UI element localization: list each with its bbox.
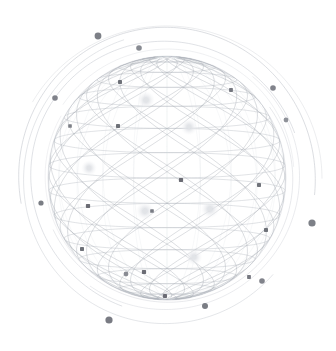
surface-node-7 — [264, 228, 268, 232]
surface-node-5 — [86, 204, 90, 208]
glow-node-1 — [144, 98, 148, 102]
surface-node-1 — [118, 80, 122, 84]
surface-node-11 — [247, 275, 251, 279]
orbit-node-3 — [52, 95, 58, 101]
glow-node-4 — [143, 209, 148, 214]
surface-node-9 — [142, 270, 146, 274]
orbit-node-6 — [38, 200, 43, 205]
orbit-node-8 — [259, 278, 265, 284]
surface-node-4 — [179, 178, 183, 182]
orbit-node-10 — [105, 316, 112, 323]
orbit-node-9 — [202, 303, 208, 309]
glow-node-5 — [208, 207, 213, 212]
orbit-node-1 — [95, 33, 102, 40]
globe-canvas — [0, 0, 336, 351]
glow-node-3 — [87, 166, 91, 170]
orbit-node-11 — [124, 272, 129, 277]
glow-node-2 — [187, 125, 191, 129]
background — [0, 0, 336, 351]
surface-node-6 — [257, 183, 261, 187]
globe-illustration: Wireframe Globe Network — [0, 0, 336, 351]
surface-node-12 — [150, 209, 154, 213]
surface-node-8 — [80, 247, 84, 251]
surface-node-2 — [116, 124, 120, 128]
orbit-node-7 — [308, 219, 315, 226]
surface-node-3 — [229, 88, 233, 92]
orbit-node-2 — [136, 45, 142, 51]
glow-node-6 — [192, 255, 196, 259]
surface-node-10 — [163, 294, 167, 298]
surface-node-13 — [68, 124, 72, 128]
orbit-node-4 — [270, 85, 276, 91]
orbit-node-5 — [284, 118, 289, 123]
